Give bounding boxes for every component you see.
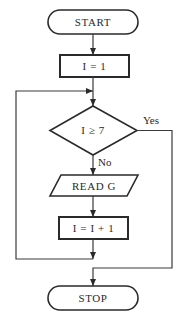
flowchart-canvas: START I = 1 I ≥ 7 Yes No READ G I = I + …	[0, 0, 184, 323]
read-label: READ G	[72, 180, 116, 192]
stop-node: STOP	[48, 286, 138, 310]
arrowhead-icon	[90, 48, 96, 55]
decision-label: I ≥ 7	[81, 124, 105, 136]
arrowhead-icon	[86, 88, 93, 94]
increment-label: I = I + 1	[73, 222, 115, 234]
arrowhead-icon	[90, 252, 96, 259]
yes-label: Yes	[143, 114, 159, 126]
arrowhead-icon	[90, 279, 96, 286]
arrowhead-icon	[90, 168, 96, 175]
read-node: READ G	[50, 175, 138, 196]
start-label: START	[75, 16, 111, 28]
init-node: I = 1	[60, 55, 129, 77]
increment-node: I = I + 1	[59, 217, 128, 239]
arrowhead-icon	[90, 99, 96, 106]
no-label: No	[98, 156, 112, 168]
stop-label: STOP	[78, 292, 107, 304]
start-node: START	[48, 10, 138, 34]
decision-node: I ≥ 7	[50, 106, 137, 155]
arrowhead-icon	[90, 210, 96, 217]
edge-yes-to-stop	[93, 131, 172, 287]
init-label: I = 1	[83, 60, 107, 72]
